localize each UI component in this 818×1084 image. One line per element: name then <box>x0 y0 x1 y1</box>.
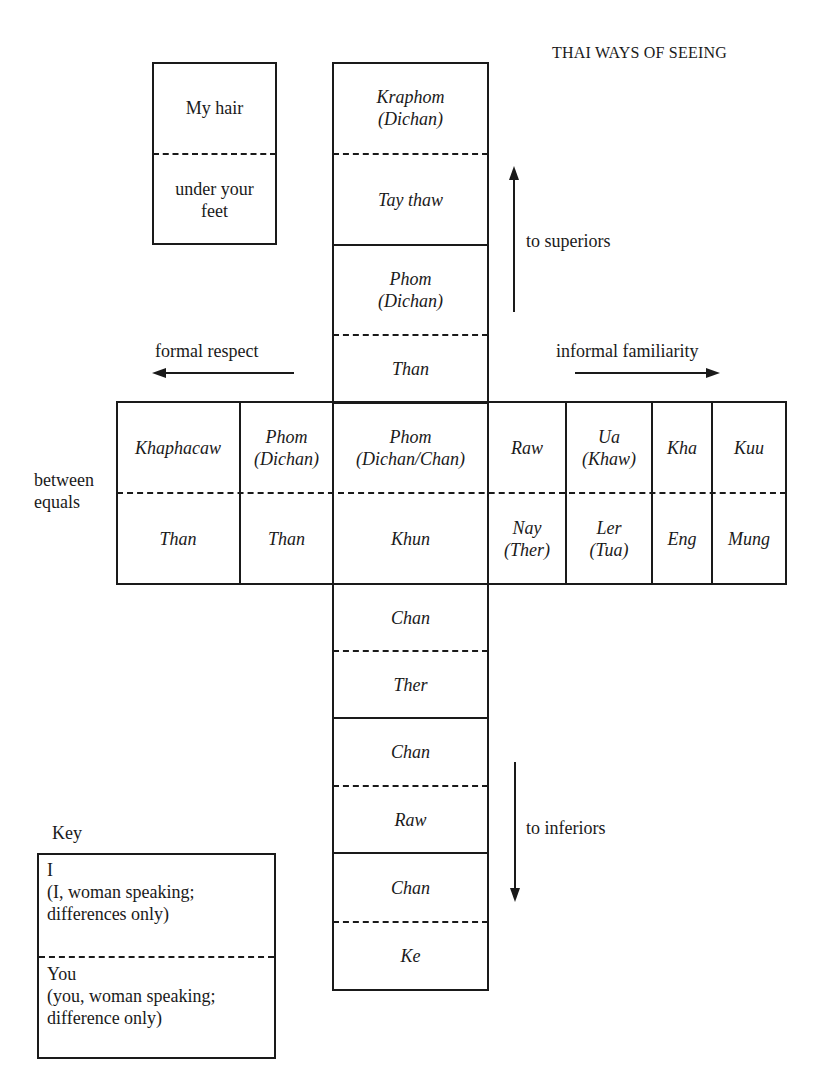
cell-i-alt-text: (Dichan) <box>378 108 443 130</box>
example-bottom-text: under your feet <box>160 178 269 222</box>
key-you-line3: difference only) <box>47 1007 162 1029</box>
key-i-line1: I <box>47 859 53 881</box>
cell-i-text: Raw <box>511 437 543 459</box>
cell-you-text: Mung <box>728 528 770 550</box>
arrow-up-shaft <box>513 178 515 312</box>
cell-phom-formal: Phom (Dichan) <box>240 402 333 493</box>
key-divider <box>39 956 274 958</box>
cell-i-text: Chan <box>391 741 430 763</box>
arrow-up-icon <box>509 166 519 180</box>
cell-i-text: Khaphacaw <box>135 437 221 459</box>
cell-ther: Ther <box>332 651 489 718</box>
key-box: I (I, woman speaking; differences only) … <box>37 853 276 1059</box>
cell-you-text: Nay <box>513 517 542 539</box>
arrow-right-icon <box>706 368 720 378</box>
cell-than-formal-2: Than <box>240 493 333 584</box>
cell-you-text: Ler <box>596 517 621 539</box>
row-label-equals: equals <box>34 491 80 513</box>
cell-chan-2: Chan <box>332 718 489 786</box>
arrow-left-icon <box>152 368 166 378</box>
arrow-down-shaft <box>514 762 516 890</box>
cell-i-alt-text: (Dichan) <box>254 448 319 470</box>
cell-i-text: Kha <box>667 437 697 459</box>
cell-phom-upper: Phom (Dichan) <box>332 245 489 335</box>
cell-chan-1: Chan <box>332 585 489 651</box>
key-i-line3: differences only) <box>47 903 169 925</box>
cell-kraphom: Kraphom (Dichan) <box>332 62 489 154</box>
cell-i-text: Phom <box>266 426 308 448</box>
label-to-inferiors: to inferiors <box>526 817 605 839</box>
cell-you-text: Ke <box>401 945 421 967</box>
arrow-down-icon <box>510 888 520 902</box>
key-you-line2: (you, woman speaking; <box>47 985 215 1007</box>
cell-you-text: Eng <box>668 528 697 550</box>
cell-khaphacaw: Khaphacaw <box>116 402 240 493</box>
cell-i-alt-text: (Dichan/Chan) <box>356 448 465 470</box>
cell-ke: Ke <box>332 922 489 989</box>
cell-you-alt-text: (Tua) <box>589 539 628 561</box>
cell-i-alt-text: (Khaw) <box>582 448 636 470</box>
cell-i-text: Kraphom <box>376 86 444 108</box>
arrow-left-shaft <box>164 372 294 374</box>
cell-kuu: Kuu <box>712 402 786 493</box>
cell-tay-thaw: Tay thaw <box>332 154 489 245</box>
cell-you-text: Tay thaw <box>378 189 443 211</box>
cell-mung: Mung <box>712 493 786 584</box>
cell-kha: Kha <box>652 402 712 493</box>
cell-than-upper: Than <box>332 335 489 402</box>
cell-you-text: Raw <box>394 809 426 831</box>
example-bottom-cell: under your feet <box>152 154 277 245</box>
cell-you-text: Ther <box>393 674 427 696</box>
cell-than-formal-1: Than <box>116 493 240 584</box>
cell-i-text: Chan <box>391 607 430 629</box>
cell-ler: Ler (Tua) <box>566 493 652 584</box>
cell-phom-center: Phom (Dichan/Chan) <box>333 402 488 493</box>
cell-i-text: Phom <box>390 426 432 448</box>
label-formal-respect: formal respect <box>155 340 258 362</box>
cell-raw-lower: Raw <box>332 786 489 853</box>
cell-eng: Eng <box>652 493 712 584</box>
arrow-right-shaft <box>575 372 708 374</box>
example-top-cell: My hair <box>152 62 277 154</box>
cell-you-text: Than <box>159 528 196 550</box>
key-i-line2: (I, woman speaking; <box>47 881 194 903</box>
cell-i-text: Chan <box>391 877 430 899</box>
cell-you-text: Khun <box>391 528 430 550</box>
key-you-line1: You <box>47 963 76 985</box>
cell-ua: Ua (Khaw) <box>566 402 652 493</box>
running-header: THAI WAYS OF SEEING <box>552 44 727 62</box>
cell-nay: Nay (Ther) <box>488 493 566 584</box>
cell-raw: Raw <box>488 402 566 493</box>
cell-you-alt-text: (Ther) <box>504 539 550 561</box>
cell-i-alt-text: (Dichan) <box>378 290 443 312</box>
cell-chan-3: Chan <box>332 853 489 922</box>
cell-khun: Khun <box>333 493 488 584</box>
key-title: Key <box>52 822 82 844</box>
cell-i-text: Phom <box>390 268 432 290</box>
label-informal-familiarity: informal familiarity <box>556 340 698 362</box>
cell-i-text: Kuu <box>734 437 764 459</box>
cell-you-text: Than <box>268 528 305 550</box>
example-top-text: My hair <box>186 97 244 119</box>
cell-you-text: Than <box>392 358 429 380</box>
row-label-between: between <box>34 469 94 491</box>
label-to-superiors: to superiors <box>526 230 611 252</box>
cell-i-text: Ua <box>598 426 620 448</box>
